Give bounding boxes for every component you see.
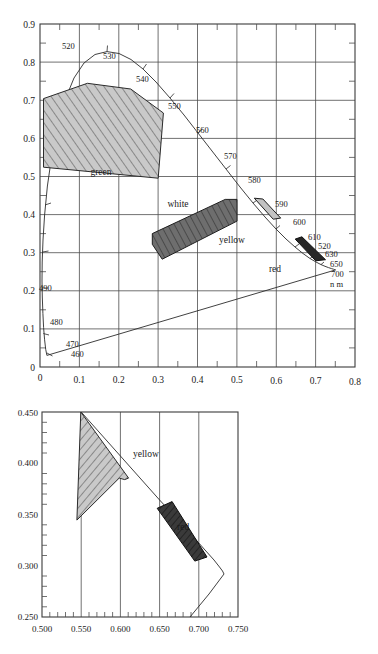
svg-text:0.5: 0.5 xyxy=(23,172,35,182)
detail-purple-line xyxy=(190,574,224,617)
svg-text:480: 480 xyxy=(50,317,63,327)
region-white xyxy=(152,199,237,259)
bottom-y-tick-labels: 0.250 0.300 0.350 0.400 0.450 xyxy=(18,408,39,623)
svg-text:0.450: 0.450 xyxy=(18,408,39,418)
svg-text:0.4: 0.4 xyxy=(192,375,204,385)
svg-text:490: 490 xyxy=(39,283,52,293)
svg-text:0.7: 0.7 xyxy=(310,376,322,386)
svg-text:0: 0 xyxy=(30,363,35,373)
detail-region-label-red: red xyxy=(177,522,189,532)
svg-text:470: 470 xyxy=(66,339,79,349)
top-y-minor-ticks xyxy=(40,43,46,348)
svg-text:460: 460 xyxy=(71,349,84,359)
svg-text:0.550: 0.550 xyxy=(71,624,92,634)
svg-text:530: 530 xyxy=(103,51,116,61)
svg-text:0.3: 0.3 xyxy=(23,248,35,258)
svg-text:0.8: 0.8 xyxy=(23,58,35,68)
svg-text:580: 580 xyxy=(248,175,261,185)
bottom-x-tick-labels: 0.500 0.550 0.600 0.650 0.700 0.750 xyxy=(32,624,249,634)
wavelength-unit-label: n m xyxy=(330,279,343,289)
bottom-y-minor-ticks xyxy=(42,422,47,607)
purple-line xyxy=(47,270,336,356)
top-y-right-minor-ticks xyxy=(349,43,355,348)
svg-text:570: 570 xyxy=(224,151,237,161)
region-label-white: white xyxy=(167,199,188,209)
svg-text:540: 540 xyxy=(136,74,149,84)
region-label-green: green xyxy=(90,167,111,177)
svg-text:0.750: 0.750 xyxy=(228,624,249,634)
region-label-red: red xyxy=(269,264,281,274)
svg-text:0.3: 0.3 xyxy=(152,375,164,385)
svg-text:0.1: 0.1 xyxy=(73,375,85,385)
svg-text:0.9: 0.9 xyxy=(23,20,35,30)
svg-text:0.1: 0.1 xyxy=(23,324,35,334)
svg-text:0.5: 0.5 xyxy=(231,375,243,385)
svg-text:0: 0 xyxy=(38,373,43,383)
svg-text:520: 520 xyxy=(62,41,75,51)
svg-text:0.4: 0.4 xyxy=(23,210,35,220)
svg-text:0.2: 0.2 xyxy=(23,286,35,296)
svg-text:600: 600 xyxy=(293,217,306,227)
svg-text:0.650: 0.650 xyxy=(149,624,170,634)
chromaticity-figure: 0 0.1 0.2 0.3 0.4 0.5 0.6 0.7 0.8 0.9 0 … xyxy=(0,0,378,654)
detail-region-yellow xyxy=(77,412,129,520)
chromaticity-detail-svg: 0.250 0.300 0.350 0.400 0.450 0.500 0.55… xyxy=(0,395,378,654)
region-green xyxy=(44,83,164,178)
region-label-yellow: yellow xyxy=(219,235,245,245)
svg-text:0.600: 0.600 xyxy=(110,624,131,634)
svg-text:0.6: 0.6 xyxy=(270,376,282,386)
bottom-x-minor-ticks xyxy=(50,612,230,617)
svg-text:0.2: 0.2 xyxy=(113,375,125,385)
svg-text:590: 590 xyxy=(275,199,288,209)
svg-text:0.300: 0.300 xyxy=(18,561,39,571)
svg-text:630: 630 xyxy=(325,249,338,259)
svg-text:0.350: 0.350 xyxy=(18,510,39,520)
svg-text:550: 550 xyxy=(168,101,181,111)
svg-text:560: 560 xyxy=(196,125,209,135)
svg-text:0.8: 0.8 xyxy=(349,377,361,387)
svg-text:0.6: 0.6 xyxy=(23,134,35,144)
top-x-tick-labels: 0 0.1 0.2 0.3 0.4 0.5 0.6 0.7 0.8 xyxy=(38,373,362,387)
svg-text:650: 650 xyxy=(330,259,343,269)
top-grid xyxy=(40,24,355,367)
svg-text:0.7: 0.7 xyxy=(23,96,35,106)
svg-text:0.500: 0.500 xyxy=(32,624,53,634)
top-y-tick-labels: 0 0.1 0.2 0.3 0.4 0.5 0.6 0.7 0.8 0.9 xyxy=(23,20,35,373)
bottom-plot-frame xyxy=(42,412,238,617)
svg-text:0.400: 0.400 xyxy=(18,458,39,468)
cie-chromaticity-svg: 0 0.1 0.2 0.3 0.4 0.5 0.6 0.7 0.8 0.9 0 … xyxy=(0,0,378,395)
svg-text:700: 700 xyxy=(331,269,344,279)
svg-text:0.250: 0.250 xyxy=(18,612,39,622)
svg-text:0.700: 0.700 xyxy=(189,624,210,634)
cie-chromaticity-chart: 0 0.1 0.2 0.3 0.4 0.5 0.6 0.7 0.8 0.9 0 … xyxy=(0,0,378,395)
detail-region-label-yellow: yellow xyxy=(133,449,159,459)
chromaticity-detail-chart: 0.250 0.300 0.350 0.400 0.450 0.500 0.55… xyxy=(0,395,378,654)
